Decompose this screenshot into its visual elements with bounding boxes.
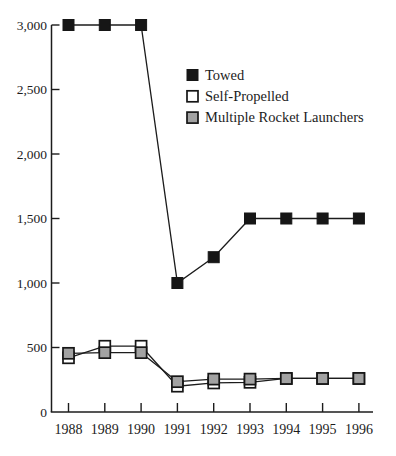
- gray-square-marker-multiple-rocket-launchers: [208, 374, 219, 385]
- x-tick-label: 1995: [309, 422, 337, 437]
- filled-square-marker-towed: [63, 20, 74, 31]
- legend: TowedSelf-PropelledMultiple Rocket Launc…: [187, 67, 364, 126]
- x-tick-label: 1993: [236, 422, 264, 437]
- filled-square-marker-towed: [281, 213, 292, 224]
- filled-square-marker-towed: [136, 20, 147, 31]
- legend-label-towed: Towed: [205, 67, 245, 83]
- x-tick-label: 1989: [91, 422, 119, 437]
- gray-square-marker-multiple-rocket-launchers: [99, 347, 110, 358]
- y-tick-label: 1,500: [17, 211, 48, 226]
- series-multiple-rocket-launchers: [63, 347, 364, 387]
- x-tick-label: 1991: [163, 422, 191, 437]
- filled-square-marker-towed: [99, 20, 110, 31]
- series-towed: [63, 20, 364, 289]
- artillery-holdings-line-chart: 05001,0001,5002,0002,5003,00019881989199…: [0, 0, 396, 456]
- gray-square-marker-multiple-rocket-launchers: [136, 347, 147, 358]
- gray-square-marker-multiple-rocket-launchers: [172, 376, 183, 387]
- filled-square-marker-towed: [353, 213, 364, 224]
- gray-square-marker-multiple-rocket-launchers: [245, 374, 256, 385]
- x-tick-label: 1988: [55, 422, 83, 437]
- gray-square-marker-multiple-rocket-launchers: [317, 373, 328, 384]
- filled-square-marker-towed: [317, 213, 328, 224]
- legend-label-self-propelled: Self-Propelled: [205, 88, 290, 104]
- gray-square-marker-multiple-rocket-launchers: [353, 373, 364, 384]
- y-tick-label: 0: [40, 405, 47, 420]
- series-line-towed: [69, 25, 359, 283]
- open-square-icon-legend-self-propelled: [187, 91, 198, 102]
- y-tick-label: 3,000: [17, 18, 48, 33]
- filled-square-marker-towed: [208, 252, 219, 263]
- filled-square-marker-towed: [172, 278, 183, 289]
- y-tick-label: 2,500: [17, 82, 48, 97]
- gray-square-icon-legend-multiple-rocket-launchers: [187, 112, 198, 123]
- filled-square-icon-legend-towed: [187, 70, 198, 81]
- x-tick-label: 1996: [345, 422, 373, 437]
- gray-square-marker-multiple-rocket-launchers: [63, 348, 74, 359]
- y-tick-label: 2,000: [17, 147, 48, 162]
- chart-page: 05001,0001,5002,0002,5003,00019881989199…: [0, 0, 396, 456]
- gray-square-marker-multiple-rocket-launchers: [281, 373, 292, 384]
- y-tick-label: 1,000: [17, 276, 48, 291]
- legend-label-multiple-rocket-launchers: Multiple Rocket Launchers: [205, 109, 364, 125]
- x-tick-label: 1990: [127, 422, 155, 437]
- filled-square-marker-towed: [245, 213, 256, 224]
- x-tick-label: 1994: [272, 422, 300, 437]
- y-tick-label: 500: [27, 340, 48, 355]
- x-tick-label: 1992: [200, 422, 228, 437]
